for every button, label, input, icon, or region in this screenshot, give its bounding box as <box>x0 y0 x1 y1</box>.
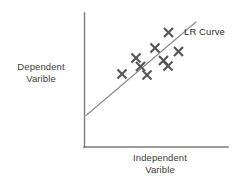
x-axis-label-line-1: Independent <box>112 152 208 164</box>
lr-curve-label: LR Curve <box>184 26 225 38</box>
scatter-point <box>151 44 160 53</box>
scatter-point <box>118 70 127 79</box>
lr-curve-line <box>86 22 196 116</box>
y-axis-label-line-2: Varible <box>4 73 78 85</box>
scatter-point <box>174 47 183 56</box>
y-axis-label-line-1: Dependent <box>4 61 78 73</box>
x-axis-label: Independent Varible <box>112 152 208 176</box>
scatter-markers <box>118 28 184 80</box>
scatter-point <box>143 71 152 80</box>
scatter-point <box>164 62 173 71</box>
scatter-point <box>132 54 141 63</box>
regression-scatter-figure: LR Curve Dependent Varible Independent V… <box>0 0 239 185</box>
scatter-point <box>164 28 173 37</box>
x-axis-label-line-2: Varible <box>112 164 208 176</box>
y-axis-label: Dependent Varible <box>4 61 78 85</box>
